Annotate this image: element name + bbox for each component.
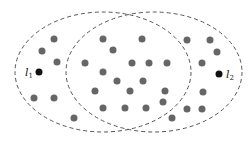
highlighted-point-l2 [216,71,223,78]
venn-point-diagram: l1l2 [0,0,251,144]
data-point [100,69,107,76]
data-point [92,88,99,95]
data-point [146,60,153,67]
data-point [200,89,207,96]
data-point [162,88,169,95]
data-point [139,36,146,43]
data-point [199,106,206,113]
data-point [100,105,107,112]
data-point [199,60,206,67]
data-point [71,115,78,122]
data-point [184,106,191,113]
dot-group [31,36,221,122]
ellipse-group [15,12,242,132]
point-label-l1: l1 [25,66,33,80]
data-point [110,47,117,54]
data-point [143,105,150,112]
data-point [39,48,46,55]
data-point [207,37,214,44]
data-point [51,95,58,102]
data-point [129,60,136,67]
data-point [140,78,147,85]
highlighted-point-l1 [36,69,43,76]
data-point [114,78,121,85]
right-ellipse [66,12,242,132]
data-point [164,60,171,67]
data-point [184,37,191,44]
highlighted-points: l1l2 [25,66,234,82]
data-point [54,59,61,66]
point-label-l2: l2 [226,68,234,82]
data-point [82,60,89,67]
data-point [122,105,129,112]
data-point [51,36,58,43]
data-point [127,88,134,95]
data-point [100,36,107,43]
data-point [160,99,167,106]
data-point [31,95,38,102]
data-point [214,49,221,56]
data-point [169,115,176,122]
